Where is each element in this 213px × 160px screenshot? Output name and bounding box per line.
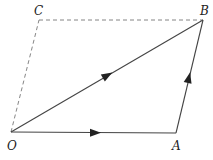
arrow-ob-icon (101, 69, 115, 81)
label-c: C (34, 4, 43, 18)
label-a: A (171, 139, 181, 153)
label-o: O (7, 139, 17, 153)
arrow-oa-icon (90, 129, 101, 137)
label-b: B (199, 4, 209, 18)
parallelogram-diagram: O A B C (0, 0, 213, 160)
edge-oc-dashed (11, 20, 39, 132)
arrow-ab-icon (184, 71, 194, 84)
